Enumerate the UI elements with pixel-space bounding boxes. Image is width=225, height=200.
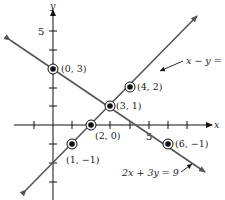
y-axis <box>49 10 57 200</box>
label-1-neg1: (1, −1) <box>66 154 100 165</box>
label-0-3: (0, 3) <box>61 63 87 74</box>
y-tick-label-5: 5 <box>38 26 44 37</box>
pointer-arrow-eq1 <box>160 61 183 71</box>
label-4-2: (4, 2) <box>137 81 163 92</box>
label-3-1: (3, 1) <box>116 100 142 111</box>
point-1-neg1 <box>67 139 77 149</box>
label-2-0: (2, 0) <box>95 130 121 141</box>
linear-system-graph: x 5 y 5 (0, 3) (4, 2) (3, 1) (2, 0) (1, … <box>0 0 225 200</box>
x-axis <box>14 121 212 129</box>
equation-label-x-minus-y: x − y = <box>186 55 222 66</box>
point-4-2 <box>125 82 135 92</box>
y-axis-label: y <box>49 0 56 11</box>
point-3-1 <box>105 101 115 111</box>
x-axis-label: x <box>214 119 220 130</box>
point-0-3 <box>48 64 58 74</box>
label-6-neg1: (6, −1) <box>175 138 209 149</box>
point-2-0 <box>86 120 96 130</box>
point-6-neg1 <box>163 139 173 149</box>
equation-label-2x-plus-3y: 2x + 3y = 9 <box>121 167 179 178</box>
pointer-arrow-eq2 <box>181 164 192 172</box>
